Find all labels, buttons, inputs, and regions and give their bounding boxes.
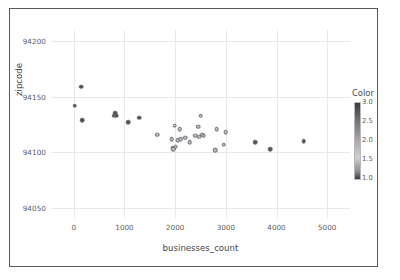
data-point[interactable] bbox=[126, 120, 131, 125]
gridline-vertical bbox=[74, 30, 75, 219]
colorbar-tick-label: 1.5 bbox=[362, 155, 373, 163]
gridline-horizontal bbox=[51, 97, 350, 98]
gridline-horizontal bbox=[51, 41, 350, 42]
y-axis-tick-label: 94050 bbox=[23, 204, 46, 213]
x-axis-tick-label: 2000 bbox=[166, 223, 184, 232]
data-point[interactable] bbox=[198, 113, 203, 118]
data-point[interactable] bbox=[268, 147, 273, 152]
data-point[interactable] bbox=[196, 124, 201, 129]
data-point[interactable] bbox=[213, 148, 218, 153]
plot-area bbox=[51, 30, 350, 219]
data-point[interactable] bbox=[169, 137, 174, 142]
colorbar-tick-label: 2.0 bbox=[362, 136, 373, 144]
data-point[interactable] bbox=[137, 116, 142, 121]
y-axis-tick-label: 94100 bbox=[23, 148, 46, 157]
y-axis-tick-label: 94200 bbox=[23, 37, 46, 46]
data-point[interactable] bbox=[224, 130, 229, 135]
data-point[interactable] bbox=[80, 118, 85, 123]
legend-title: Color bbox=[352, 88, 374, 98]
colorbar-tick-label: 1.0 bbox=[362, 174, 373, 182]
gridline-vertical bbox=[277, 30, 278, 219]
x-axis-title: businesses_count bbox=[51, 243, 350, 253]
data-point[interactable] bbox=[222, 142, 227, 147]
data-point[interactable] bbox=[253, 140, 258, 145]
data-point[interactable] bbox=[183, 136, 188, 141]
y-axis-tick-label: 94150 bbox=[23, 93, 46, 102]
data-point[interactable] bbox=[79, 84, 84, 89]
x-axis-tick-label: 1000 bbox=[115, 223, 133, 232]
data-point[interactable] bbox=[114, 113, 119, 118]
gridline-horizontal bbox=[51, 152, 350, 153]
colorbar-tick-label: 3.0 bbox=[362, 98, 373, 106]
x-axis-tick-label: 3000 bbox=[217, 223, 235, 232]
gridline-horizontal bbox=[51, 208, 350, 209]
x-axis-tick-label: 0 bbox=[72, 223, 77, 232]
gridline-vertical bbox=[327, 30, 328, 219]
x-axis-tick-label: 5000 bbox=[318, 223, 336, 232]
colorbar-tick-label: 2.5 bbox=[362, 117, 373, 125]
data-point[interactable] bbox=[188, 140, 193, 145]
data-point[interactable] bbox=[177, 127, 182, 132]
data-point[interactable] bbox=[173, 144, 178, 149]
data-point[interactable] bbox=[73, 103, 78, 108]
scatter-chart-figure: zipcode 94050941009415094200 01000200030… bbox=[0, 0, 400, 280]
gridline-vertical bbox=[124, 30, 125, 219]
data-point[interactable] bbox=[214, 127, 219, 132]
x-axis-tick-label: 4000 bbox=[267, 223, 285, 232]
gridline-vertical bbox=[226, 30, 227, 219]
data-point[interactable] bbox=[172, 123, 177, 128]
y-axis-title: zipcode bbox=[14, 63, 24, 96]
data-point[interactable] bbox=[155, 132, 160, 137]
data-point[interactable] bbox=[201, 133, 206, 138]
colorbar-gradient bbox=[354, 102, 361, 180]
data-point[interactable] bbox=[302, 139, 307, 144]
